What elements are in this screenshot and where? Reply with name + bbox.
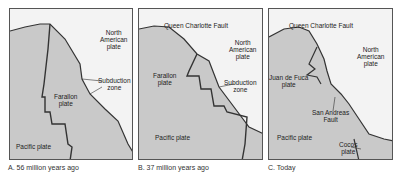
panel-b-map: Queen Charlotte Fault North American pla… xyxy=(138,8,263,160)
label-cocos-plate: Cocos plate xyxy=(339,141,357,155)
label-pacific-plate: Pacific plate xyxy=(155,134,190,141)
label-north-american-plate: North American plate xyxy=(100,29,127,50)
caption-c: C. Today xyxy=(268,164,296,171)
label-queen-charlotte-fault: Queen Charlotte Fault xyxy=(164,22,228,29)
label-farallon-plate: Farallon plate xyxy=(153,72,176,86)
label-north-american-plate: North American plate xyxy=(357,46,384,67)
caption-a: A. 56 million years ago xyxy=(8,164,79,171)
label-queen-charlotte-fault: Queen Charlotte Fault xyxy=(289,22,353,29)
label-san-andreas-fault: San Andreas Fault xyxy=(312,109,349,123)
label-subduction-zone: Subduction zone xyxy=(224,79,257,93)
panel-c-map: Queen Charlotte Fault North American pla… xyxy=(268,8,393,160)
label-subduction-zone: Subduction zone xyxy=(98,77,131,91)
caption-b: B. 37 million years ago xyxy=(138,164,209,171)
panel-a-map: North American plate Subduction zone Far… xyxy=(9,8,133,160)
label-pacific-plate: Pacific plate xyxy=(16,143,51,150)
label-north-american-plate: North American plate xyxy=(229,39,256,60)
label-juan-de-fuca-plate: Juan de Fuca plate xyxy=(269,74,308,88)
label-pacific-plate: Pacific plate xyxy=(277,134,312,141)
label-farallon-plate: Farallon plate xyxy=(54,93,77,107)
